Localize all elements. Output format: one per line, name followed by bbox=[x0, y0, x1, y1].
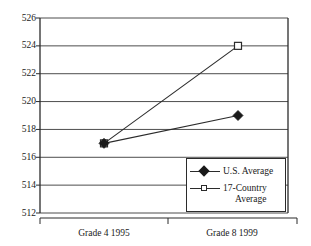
legend-label-us-average: U.S. Average bbox=[220, 166, 273, 177]
line-chart: 526 524 522 520 518 516 514 512 Grade 4 … bbox=[0, 0, 311, 246]
legend-item-us-average[interactable]: U.S. Average bbox=[187, 164, 285, 178]
y-tick-label: 524 bbox=[10, 41, 36, 51]
filled-diamond-marker-icon bbox=[190, 165, 220, 177]
x-tick-label-grade-8-1999: Grade 8 1999 bbox=[190, 229, 274, 239]
y-axis-tick-labels: 526 524 522 520 518 516 514 512 bbox=[6, 0, 36, 246]
legend-label-17-country-line2: Average bbox=[235, 194, 266, 205]
y-tick-label: 516 bbox=[10, 153, 36, 163]
chart-legend: U.S. Average 17-Country Average bbox=[186, 158, 286, 212]
marker-17-country-grade8 bbox=[235, 42, 242, 49]
y-tick-label: 526 bbox=[10, 14, 36, 24]
x-tick-label-grade-4-1995: Grade 4 1995 bbox=[62, 229, 146, 239]
y-tick-label: 514 bbox=[10, 181, 36, 191]
x-tick-marks bbox=[40, 218, 297, 224]
y-tick-label: 522 bbox=[10, 69, 36, 79]
y-tick-label: 512 bbox=[10, 209, 36, 219]
y-tick-label: 520 bbox=[10, 97, 36, 107]
legend-label-17-country-line1: 17-Country bbox=[220, 183, 267, 194]
open-square-marker-icon bbox=[190, 182, 220, 194]
y-tick-label: 518 bbox=[10, 125, 36, 135]
marker-us-grade8 bbox=[233, 111, 243, 121]
legend-item-17-country-average[interactable]: 17-Country bbox=[187, 181, 285, 195]
series-line-17-country bbox=[104, 46, 238, 144]
